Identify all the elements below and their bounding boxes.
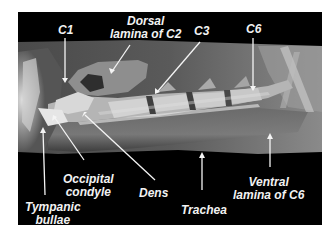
label-ventral-line2: lamina of C6	[233, 189, 304, 202]
label-dorsal-lamina-line2: lamina of C2	[110, 28, 181, 41]
radiograph-figure: C1 Dorsal lamina of C2 C3 C6 Occipital c…	[18, 12, 322, 225]
label-c1: C1	[58, 24, 73, 37]
label-trachea: Trachea	[181, 204, 227, 217]
label-dens: Dens	[139, 187, 168, 200]
label-occipital-line2: condyle	[63, 186, 114, 199]
label-tympanic-bullae: Tympanic bullae	[25, 201, 81, 225]
label-occipital-condyle: Occipital condyle	[63, 173, 114, 199]
label-tympanic-line2: bullae	[25, 214, 81, 225]
label-c3: C3	[194, 25, 209, 38]
label-dorsal-lamina-c2: Dorsal lamina of C2	[110, 15, 181, 41]
label-c6: C6	[246, 23, 261, 36]
label-ventral-lamina-c6: Ventral lamina of C6	[233, 176, 304, 202]
